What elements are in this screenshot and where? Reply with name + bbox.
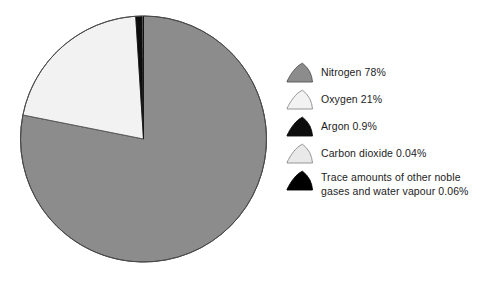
pie-chart-svg <box>14 8 276 274</box>
legend-label-carbon-dioxide: Carbon dioxide 0.04% <box>321 143 426 161</box>
pie-wedge-swatch-nitrogen-icon <box>286 62 314 83</box>
legend-label-trace-gases: Trace amounts of other noble gases and w… <box>321 170 469 198</box>
pie-chart <box>14 8 276 274</box>
legend-item-nitrogen[interactable]: Nitrogen 78% <box>286 62 484 83</box>
pie-wedge-swatch-argon-icon <box>286 116 314 137</box>
pie-wedge-swatch-carbon-dioxide-icon <box>286 143 314 164</box>
pie-wedge-swatch-trace-gases-icon <box>286 170 314 191</box>
legend-item-trace-gases[interactable]: Trace amounts of other noble gases and w… <box>286 170 484 200</box>
pie-wedge-swatch-oxygen-icon <box>286 89 314 110</box>
chart-legend: Nitrogen 78% Oxygen 21% Argon 0.9% <box>286 62 484 204</box>
legend-label-nitrogen: Nitrogen 78% <box>321 62 386 80</box>
legend-item-argon[interactable]: Argon 0.9% <box>286 116 484 137</box>
legend-item-carbon-dioxide[interactable]: Carbon dioxide 0.04% <box>286 143 484 164</box>
legend-label-oxygen: Oxygen 21% <box>321 89 382 107</box>
legend-label-argon: Argon 0.9% <box>321 116 377 134</box>
legend-item-oxygen[interactable]: Oxygen 21% <box>286 89 484 110</box>
pie-chart-figure: Nitrogen 78% Oxygen 21% Argon 0.9% <box>0 0 488 289</box>
